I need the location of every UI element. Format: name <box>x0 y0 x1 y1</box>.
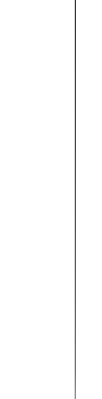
right-empty-pane <box>76 0 102 399</box>
left-empty-pane <box>0 0 75 399</box>
screen-root <box>0 0 102 399</box>
